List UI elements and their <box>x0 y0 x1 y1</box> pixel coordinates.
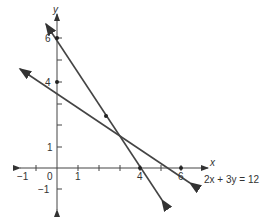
intercept-points <box>55 36 183 170</box>
graph: x y −1 0 1 4 6 6 4 1 −1 2x + 3y = 12 <box>0 0 276 219</box>
tick-label-y-neg1: −1 <box>38 184 50 195</box>
tick-label-y-4: 4 <box>45 77 51 88</box>
y-axis-label: y <box>52 4 59 15</box>
tick-label-x-0: 0 <box>47 171 53 182</box>
tick-label-x-6: 6 <box>178 171 184 182</box>
equation-label: 2x + 3y = 12 <box>204 174 259 185</box>
tick-label-x-neg1: −1 <box>17 171 29 182</box>
tick-label-y-6: 6 <box>45 33 51 44</box>
y-ticks <box>57 38 62 189</box>
line-3x-2y-12 <box>46 24 162 200</box>
x-axis-label: x <box>209 157 216 168</box>
tick-label-x-4: 4 <box>137 171 143 182</box>
tick-label-y-1: 1 <box>47 142 53 153</box>
tick-label-x-1: 1 <box>75 171 81 182</box>
